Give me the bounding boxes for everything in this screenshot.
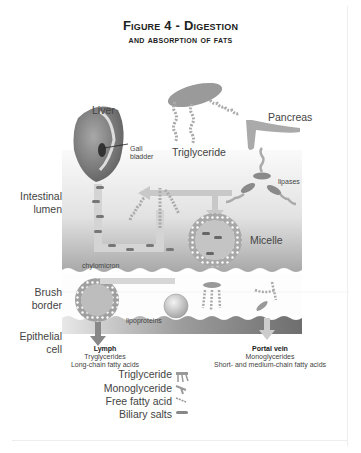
lymph-info: Lymph Tryglycerides Long-chain fatty aci…: [60, 345, 150, 369]
legend-item-biliary-salts: Biliary salts: [90, 408, 172, 420]
label-brush-border-1: Brush: [2, 286, 62, 298]
label-epithelial-cell-1: Epithelial: [2, 330, 62, 342]
label-liver: Liver: [92, 104, 115, 116]
frame-border-bottom: [12, 440, 347, 441]
legend-biliary-salts-icon: [176, 411, 188, 414]
label-brush-border-2: border: [2, 299, 62, 311]
triglyceride-molecule-icon: [165, 78, 239, 144]
label-lipoproteins: lipoproteins: [126, 317, 162, 325]
portal-vein-line2: Short- and medium-chain fatty acids: [205, 361, 335, 369]
lymph-line1: Tryglycerides: [60, 353, 150, 361]
label-triglyceride: Triglyceride: [172, 146, 226, 158]
frame-border-right: [347, 6, 348, 446]
legend-monoglyceride-icon: [176, 386, 186, 394]
legend-triglyceride-icon: [176, 372, 188, 382]
portal-vein-info: Portal vein Monoglycerides Short- and me…: [205, 345, 335, 369]
label-epithelial-cell-2: cell: [2, 343, 62, 355]
lymph-title: Lymph: [60, 345, 150, 353]
label-intestinal-lumen-2: lumen: [2, 203, 62, 215]
label-gall-bladder-2: bladder: [130, 153, 153, 161]
legend-item-triglyceride: Triglyceride: [90, 368, 172, 380]
portal-vein-title: Portal vein: [205, 345, 335, 353]
legend-item-monoglyceride: Monoglyceride: [90, 382, 172, 394]
digestion-diagram: [0, 0, 361, 453]
legend-free-fatty-acid-icon: [176, 398, 186, 402]
portal-vein-line1: Monoglycerides: [205, 353, 335, 361]
label-intestinal-lumen-1: Intestinal: [2, 190, 62, 202]
label-pancreas: Pancreas: [268, 111, 312, 123]
label-gall-bladder-1: Gall: [130, 145, 142, 153]
label-micelle: Micelle: [250, 234, 283, 246]
label-lipases: lipases: [278, 178, 300, 186]
label-chylomicron: chylomicron: [82, 262, 119, 270]
legend-item-free-fatty-acid: Free fatty acid: [90, 395, 172, 407]
